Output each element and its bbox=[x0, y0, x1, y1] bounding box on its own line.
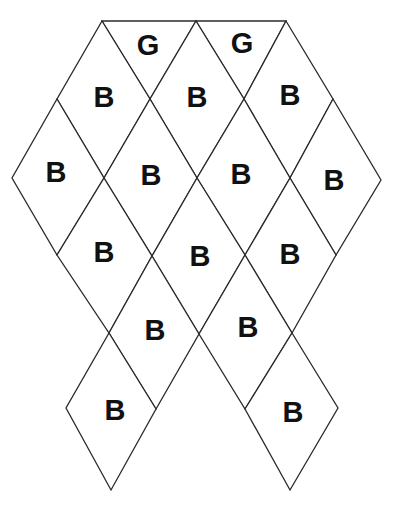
face-label: B bbox=[46, 156, 67, 188]
face-label: G bbox=[231, 27, 254, 59]
face-label: B bbox=[94, 236, 115, 268]
face-label: B bbox=[187, 81, 208, 113]
face-label: B bbox=[190, 240, 211, 272]
face-label: B bbox=[105, 394, 126, 426]
face-label: B bbox=[231, 158, 252, 190]
face-label: B bbox=[238, 311, 259, 343]
face-label: B bbox=[324, 164, 345, 196]
face-label: B bbox=[141, 159, 162, 191]
face-label: G bbox=[137, 29, 160, 61]
cells-layer: GGBBBBBBBBBBBBBB bbox=[12, 21, 381, 490]
face-label: B bbox=[145, 314, 166, 346]
face-label: B bbox=[280, 238, 301, 270]
face-label: B bbox=[283, 396, 304, 428]
face-label: B bbox=[280, 79, 301, 111]
rhombus-net-diagram: GGBBBBBBBBBBBBBB bbox=[0, 0, 396, 517]
face-label: B bbox=[94, 81, 115, 113]
